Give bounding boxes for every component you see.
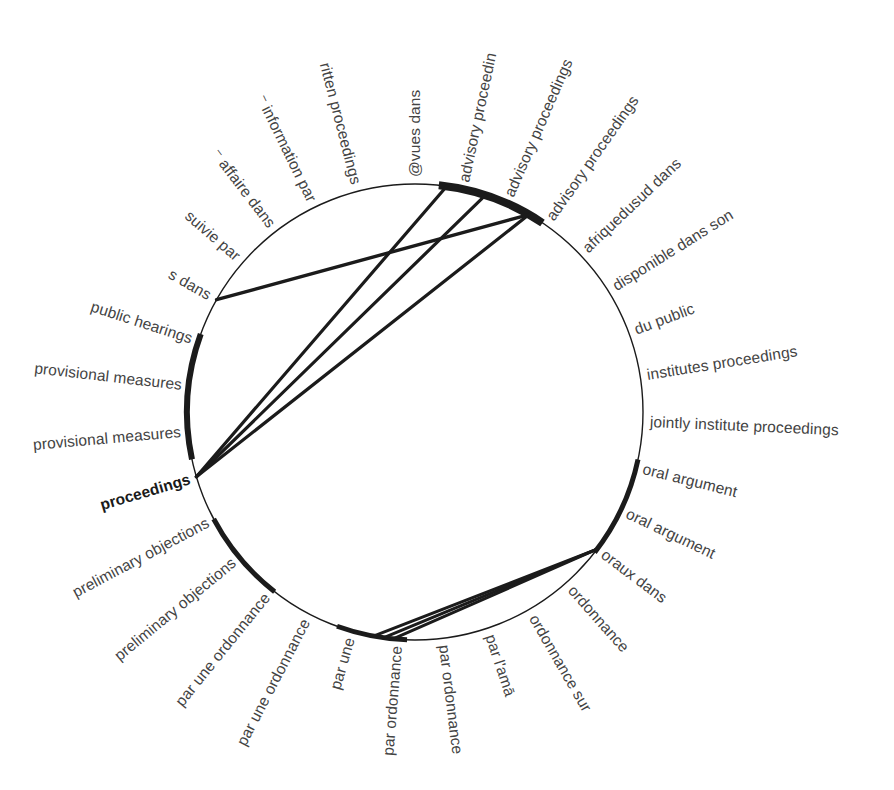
arc-segment [187,334,201,459]
arc-segments-group [187,185,638,640]
node-label: @vues dans [406,90,424,177]
chord-link [196,186,446,477]
chord-ribbons-group [196,186,597,639]
chord-link [196,215,529,477]
chord-diagram-canvas: @vues dansadvisory proceedinadvisory pro… [0,0,894,790]
